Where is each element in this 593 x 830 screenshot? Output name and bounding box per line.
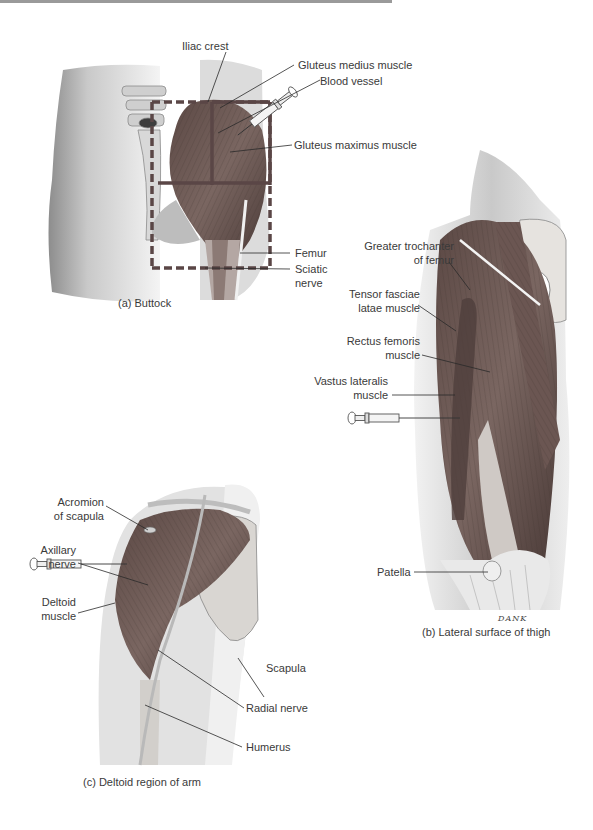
label-blood-vessel: Blood vessel bbox=[320, 75, 382, 88]
label-humerus: Humerus bbox=[246, 741, 291, 754]
artist-signature: DANK bbox=[498, 614, 527, 623]
label-sciatic-nerve-line2: nerve bbox=[295, 277, 323, 290]
label-vastus-lateralis-line2: muscle bbox=[300, 389, 388, 402]
caption-thigh: (b) Lateral surface of thigh bbox=[422, 626, 550, 638]
label-acromion-line1: Acromion bbox=[40, 496, 104, 509]
label-scapula: Scapula bbox=[266, 662, 306, 675]
caption-deltoid: (c) Deltoid region of arm bbox=[83, 776, 201, 788]
label-tensor-fasciae-line2: latae muscle bbox=[338, 302, 420, 315]
buttock-illustration bbox=[49, 60, 300, 302]
label-vastus-lateralis-line1: Vastus lateralis bbox=[300, 375, 388, 388]
label-tensor-fasciae-line1: Tensor fasciae bbox=[338, 288, 420, 301]
label-gluteus-maximus: Gluteus maximus muscle bbox=[294, 139, 417, 152]
label-deltoid-line2: muscle bbox=[20, 610, 76, 623]
label-patella: Patella bbox=[377, 566, 411, 579]
label-greater-trochanter-line1: Greater trochanter bbox=[358, 240, 454, 253]
label-axillary-line2: nerve bbox=[20, 558, 76, 571]
label-acromion-line2: of scapula bbox=[40, 510, 104, 523]
label-femur: Femur bbox=[295, 247, 327, 260]
label-rectus-femoris-line2: muscle bbox=[338, 349, 420, 362]
label-sciatic-nerve-line1: Sciatic bbox=[295, 263, 327, 276]
label-greater-trochanter-line2: of femur bbox=[358, 254, 454, 267]
caption-buttock: (a) Buttock bbox=[118, 297, 171, 309]
label-radial-nerve: Radial nerve bbox=[246, 702, 308, 715]
label-gluteus-medius: Gluteus medius muscle bbox=[298, 59, 412, 72]
label-axillary-line1: Axillary bbox=[20, 544, 76, 557]
label-iliac-crest: Iliac crest bbox=[182, 40, 228, 53]
label-deltoid-line1: Deltoid bbox=[20, 596, 76, 609]
label-rectus-femoris-line1: Rectus femoris bbox=[338, 335, 420, 348]
deltoid-illustration bbox=[30, 484, 260, 765]
